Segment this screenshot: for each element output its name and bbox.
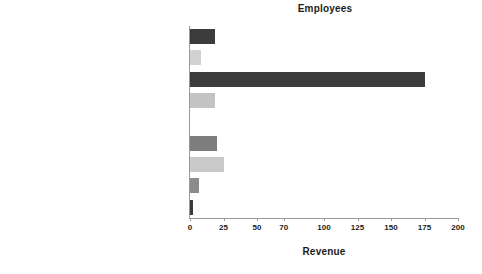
x-tick-mark (425, 218, 426, 221)
chart-title: Employees (190, 3, 460, 14)
x-tick-mark (257, 218, 258, 221)
x-tick-label: 100 (317, 223, 330, 232)
bar-row (190, 26, 458, 47)
x-tick-mark (224, 218, 225, 221)
x-axis-title: Revenue (190, 246, 458, 257)
x-tick-mark (324, 218, 325, 221)
x-tick-mark (391, 218, 392, 221)
bar (190, 136, 217, 151)
bar (190, 72, 425, 87)
x-tick-mark (190, 218, 191, 221)
bar (190, 157, 224, 172)
bar (190, 50, 201, 65)
bar-row (190, 47, 458, 68)
bar-row (190, 133, 458, 154)
x-tick-label: 70 (279, 223, 288, 232)
x-tick-mark (458, 218, 459, 221)
bar (190, 178, 199, 193)
bar-row (190, 154, 458, 175)
x-tick-label: 125 (351, 223, 364, 232)
x-tick-label: 175 (418, 223, 431, 232)
bar-chart: Employees Wholesale TradeTransportation … (0, 0, 482, 274)
x-tick-label: 150 (384, 223, 397, 232)
bar-row (190, 197, 458, 218)
x-tick-mark (358, 218, 359, 221)
bar-row (190, 111, 458, 132)
x-tick-label: 25 (219, 223, 228, 232)
bar (190, 200, 193, 215)
bar-row (190, 69, 458, 90)
bar (190, 93, 215, 108)
x-tick-label: 50 (253, 223, 262, 232)
x-tick-label: 0 (188, 223, 192, 232)
bar (190, 29, 215, 44)
plot-area (190, 26, 458, 218)
bar-row (190, 175, 458, 196)
x-tick-mark (284, 218, 285, 221)
x-tick-label: 200 (451, 223, 464, 232)
bar-row (190, 90, 458, 111)
